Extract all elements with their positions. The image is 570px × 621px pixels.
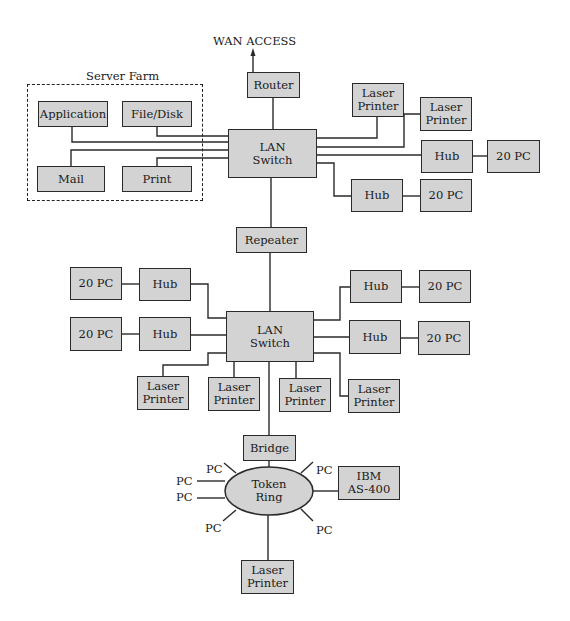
bridge: Bridge xyxy=(243,435,296,461)
laser-printer-2b: Laser Printer xyxy=(208,377,260,411)
pc-group-2a: 20 PC xyxy=(70,267,122,300)
laser-printer-1b: Laser Printer xyxy=(420,97,472,131)
ring-pc-top-left: PC xyxy=(206,463,223,476)
hub-2b: Hub xyxy=(139,317,191,351)
hub-1a: Hub xyxy=(421,140,473,173)
ibm-as400: IBM AS-400 xyxy=(338,466,400,500)
pc-group-2c: 20 PC xyxy=(419,270,471,303)
lan-switch-1: LAN Switch xyxy=(228,129,317,178)
server-print: Print xyxy=(122,166,192,192)
ring-pc-bottom-left: PC xyxy=(205,522,222,535)
pc-group-1a: 20 PC xyxy=(487,140,540,173)
ring-pc-bottom-right: PC xyxy=(316,524,333,537)
router: Router xyxy=(247,72,300,98)
laser-printer-ring: Laser Printer xyxy=(241,560,294,594)
laser-printer-1a: Laser Printer xyxy=(352,83,404,117)
server-file-disk: File/Disk xyxy=(122,101,192,127)
server-farm-label: Server Farm xyxy=(86,70,159,83)
lan-switch-2: LAN Switch xyxy=(226,311,314,362)
ring-pc-top-right: PC xyxy=(316,464,333,477)
ring-pc-left-upper: PC xyxy=(176,475,193,488)
pc-group-2d: 20 PC xyxy=(418,321,470,355)
hub-2a: Hub xyxy=(139,268,191,301)
laser-printer-2a: Laser Printer xyxy=(137,376,189,410)
server-mail: Mail xyxy=(37,166,105,192)
ring-pc-left-lower: PC xyxy=(176,491,193,504)
token-ring-label: Token Ring xyxy=(247,478,291,504)
pc-group-2b: 20 PC xyxy=(70,317,122,351)
arrow-up-icon xyxy=(251,48,256,56)
repeater: Repeater xyxy=(236,227,307,253)
server-application: Application xyxy=(38,101,108,127)
hub-1b: Hub xyxy=(351,179,403,212)
hub-2c: Hub xyxy=(350,270,402,303)
laser-printer-2c: Laser Printer xyxy=(279,378,331,412)
wan-access-label: WAN ACCESS xyxy=(213,35,296,48)
laser-printer-2d: Laser Printer xyxy=(348,379,400,413)
pc-group-1b: 20 PC xyxy=(420,179,472,212)
hub-2d: Hub xyxy=(349,320,401,354)
